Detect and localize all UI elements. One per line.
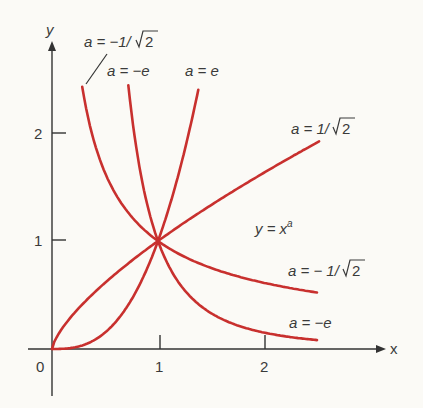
y-axis-label: y	[45, 21, 55, 38]
annotation-exponent: a	[287, 218, 293, 229]
label-radical-number: 2	[352, 262, 360, 279]
x-axis-arrow-icon	[376, 345, 386, 353]
label-a-neg-inv-sqrt2-top: a = −1/ 2	[84, 31, 158, 50]
label-leader-line	[86, 54, 107, 84]
label-a-inv-sqrt2-right: a = 1/ 2	[291, 118, 355, 137]
annotation-base: y = x	[254, 220, 288, 237]
title-annotation: y = xa	[254, 218, 293, 237]
curves	[52, 85, 319, 349]
label-radical-number: 2	[342, 120, 350, 137]
x-tick-label-2: 2	[260, 358, 268, 375]
curve-series-0	[52, 90, 198, 349]
label-a-neg-e-top: a = −e	[107, 62, 150, 79]
curve-series-1	[52, 141, 319, 349]
label-a-e-top: a = e	[185, 62, 219, 79]
power-function-chart: 0 1 2 1 2 y x a = −1/ 2 a = −e a = e a =…	[0, 0, 423, 408]
curve-series-2	[82, 87, 317, 293]
x-axis-label: x	[390, 340, 398, 357]
label-a-neg-e-right: a = −e	[289, 314, 332, 331]
label-a-neg-inv-sqrt2-right: a = − 1/ 2	[288, 260, 365, 279]
curve-series-3	[128, 85, 317, 340]
svg-text:y = xa: y = xa	[254, 218, 293, 237]
y-tick-label-2: 2	[34, 125, 42, 142]
x-tick-label-0: 0	[36, 358, 44, 375]
axes	[28, 41, 386, 396]
label-prefix: a = −1/	[84, 33, 133, 50]
x-tick-label-1: 1	[155, 358, 163, 375]
y-tick-label-1: 1	[34, 232, 42, 249]
label-prefix: a = 1/	[291, 120, 331, 137]
label-prefix: a = − 1/	[288, 262, 341, 279]
y-axis-arrow-icon	[48, 41, 56, 51]
label-radical-number: 2	[145, 33, 153, 50]
